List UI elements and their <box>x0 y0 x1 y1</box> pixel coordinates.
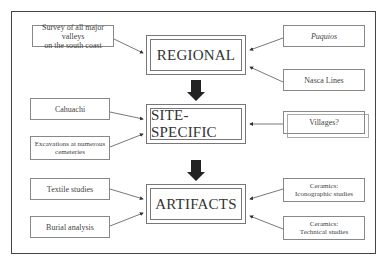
ceramics-technical-line2: Technical studies <box>300 228 348 236</box>
burial-analysis-label: Burial analysis <box>46 223 94 232</box>
ceramics-iconographic-line1: Ceramics: <box>310 182 338 190</box>
site-specific-label: SITE-SPECIFIC <box>150 108 242 140</box>
survey-valleys-line2: on the south coast <box>44 41 102 50</box>
excavations-line2: cemeteries <box>55 148 85 156</box>
nasca-lines-label: Nasca Lines <box>304 76 343 85</box>
ceramics-iconographic-box: Ceramics: Iconographic studies <box>283 178 365 202</box>
artifacts-label: ARTIFACTS <box>150 188 242 220</box>
textile-studies-label: Textile studies <box>47 185 93 194</box>
textile-studies-box: Textile studies <box>30 178 110 200</box>
cahuachi-box: Cahuachi <box>30 98 110 120</box>
cahuachi-label: Cahuachi <box>55 105 85 114</box>
puquios-label: Puquios <box>311 32 337 41</box>
site-specific-box: SITE-SPECIFIC <box>146 104 246 144</box>
villages-label: Villages? <box>309 118 339 127</box>
ceramics-iconographic-line2: Iconographic studies <box>295 190 353 198</box>
puquios-box: Puquios <box>283 25 365 47</box>
survey-valleys-line1: Survey of all major valleys <box>33 23 113 41</box>
excavations-line1: Excavations at numerous <box>35 140 105 148</box>
ceramics-technical-line1: Ceramics: <box>310 220 338 228</box>
nasca-lines-box: Nasca Lines <box>283 69 365 91</box>
regional-box: REGIONAL <box>146 35 246 75</box>
villages-box: Villages? <box>283 111 365 134</box>
burial-analysis-box: Burial analysis <box>30 216 110 238</box>
ceramics-technical-box: Ceramics: Technical studies <box>283 216 365 240</box>
excavations-box: Excavations at numerous cemeteries <box>30 136 110 160</box>
artifacts-box: ARTIFACTS <box>146 184 246 224</box>
regional-label: REGIONAL <box>150 39 242 71</box>
survey-valleys-box: Survey of all major valleys on the south… <box>32 25 114 47</box>
